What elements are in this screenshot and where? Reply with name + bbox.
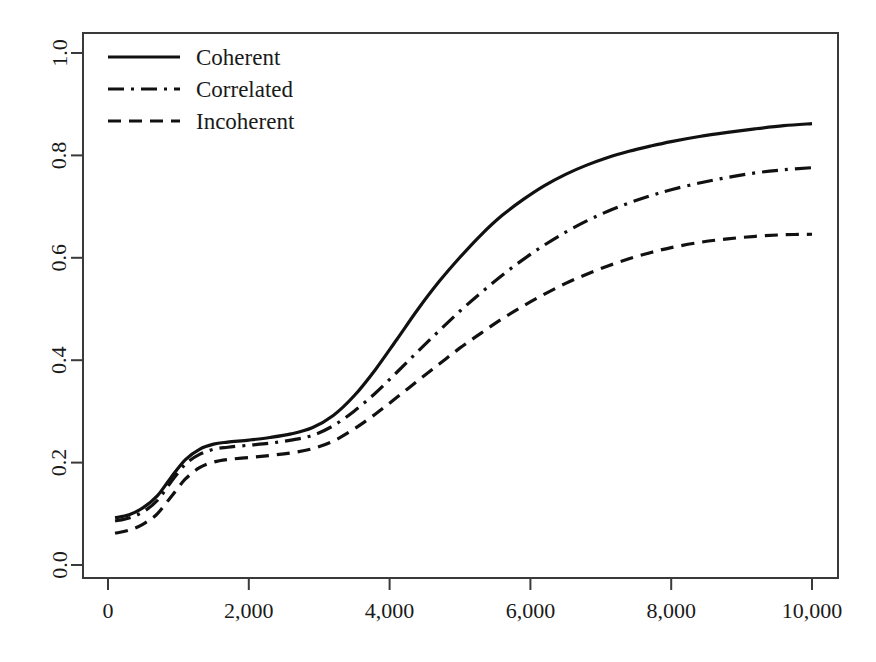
y-tick-label: 0.2 <box>47 449 72 477</box>
x-tick-label: 8,000 <box>646 598 696 623</box>
x-tick-label: 4,000 <box>365 598 415 623</box>
x-axis-ticks <box>108 578 812 590</box>
x-tick-label: 0 <box>103 598 114 623</box>
y-axis-tick-labels: 0.00.20.40.60.81.0 <box>47 39 72 579</box>
x-axis-tick-labels: 02,0004,0006,0008,00010,000 <box>103 598 843 623</box>
legend-label-incoherent: Incoherent <box>196 109 295 134</box>
y-tick-label: 0.8 <box>47 142 72 170</box>
line-chart: 02,0004,0006,0008,00010,000 0.00.20.40.6… <box>0 0 876 662</box>
y-tick-label: 1.0 <box>47 39 72 67</box>
legend-label-coherent: Coherent <box>196 45 281 70</box>
x-tick-label: 6,000 <box>506 598 556 623</box>
y-tick-label: 0.6 <box>47 244 72 272</box>
legend-label-correlated: Correlated <box>196 77 294 102</box>
data-series-group <box>115 124 812 534</box>
chart-container: 02,0004,0006,0008,00010,000 0.00.20.40.6… <box>0 0 876 662</box>
y-tick-label: 0.4 <box>47 346 72 374</box>
chart-legend: CoherentCorrelatedIncoherent <box>108 45 295 134</box>
series-line-incoherent <box>115 234 812 533</box>
x-tick-label: 10,000 <box>782 598 843 623</box>
x-tick-label: 2,000 <box>224 598 274 623</box>
y-axis-ticks <box>71 53 83 565</box>
y-tick-label: 0.0 <box>47 551 72 579</box>
